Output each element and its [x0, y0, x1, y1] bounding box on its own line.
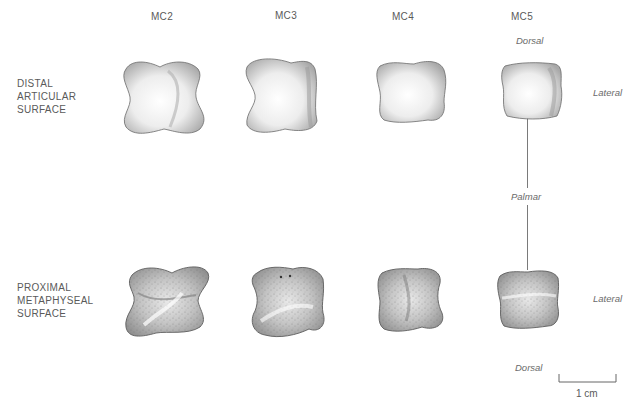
orientation-label-palmar: Palmar [511, 191, 541, 202]
row-label-line: ARTICULAR [17, 90, 76, 103]
orientation-label-dorsal-top: Dorsal [516, 35, 543, 46]
column-label-mc4: MC4 [383, 11, 423, 22]
distal-surface-mc5-illustration [499, 60, 564, 122]
distal-surface-mc4-illustration [374, 58, 449, 126]
column-label-mc2: MC2 [142, 11, 182, 22]
distal-surface-mc3-illustration [241, 55, 319, 137]
row-label-line: SURFACE [17, 307, 93, 320]
scale-bar [558, 373, 618, 385]
row-label-line: SURFACE [17, 103, 76, 116]
proximal-surface-mc4-illustration [376, 265, 448, 335]
row-label-line: METAPHYSEAL [17, 294, 93, 307]
palmar-axis-line-lower [527, 205, 528, 270]
row-label-line: PROXIMAL [17, 281, 93, 294]
orientation-label-lateral-top: Lateral [593, 87, 622, 98]
column-label-mc5: MC5 [502, 11, 542, 22]
proximal-surface-mc3-illustration [249, 263, 327, 343]
orientation-label-lateral-bottom: Lateral [593, 293, 622, 304]
row-label-line: DISTAL [17, 77, 76, 90]
column-label-mc3: MC3 [266, 10, 306, 21]
proximal-surface-mc2-illustration [124, 263, 212, 341]
scale-bar-label: 1 cm [576, 388, 598, 399]
palmar-axis-line-upper [527, 118, 528, 188]
proximal-surface-mc5-illustration [494, 268, 562, 332]
distal-surface-mc2-illustration [118, 57, 213, 137]
row-label-proximal-metaphyseal-surface: PROXIMAL METAPHYSEAL SURFACE [17, 281, 93, 320]
row-label-distal-articular-surface: DISTAL ARTICULAR SURFACE [17, 77, 76, 116]
orientation-label-dorsal-bottom: Dorsal [515, 362, 542, 373]
